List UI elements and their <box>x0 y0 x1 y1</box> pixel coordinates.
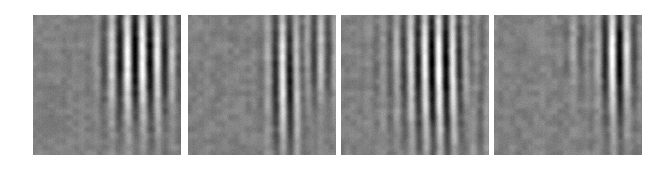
gabor-panel-4-canvas <box>494 15 642 155</box>
gabor-panel-1 <box>33 15 181 155</box>
gabor-panel-3-canvas <box>341 15 489 155</box>
gabor-panel-2-canvas <box>188 15 336 155</box>
gabor-panel-4 <box>494 15 642 155</box>
gabor-panel-1-canvas <box>33 15 181 155</box>
gabor-panel-3 <box>341 15 489 155</box>
gabor-panel-2 <box>188 15 336 155</box>
figure-container <box>0 0 665 169</box>
